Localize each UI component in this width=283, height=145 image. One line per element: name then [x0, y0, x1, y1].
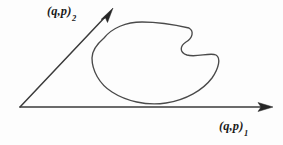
phase-space-figure: (q,p)2 (q,p)1 — [0, 0, 283, 145]
horizontal-axis-label-subscript: 1 — [244, 128, 248, 138]
vertical-axis-label: (q,p)2 — [47, 5, 76, 20]
vertical-axis-label-base: (q,p) — [47, 4, 71, 18]
horizontal-axis-label-base: (q,p) — [219, 119, 243, 133]
closed-orbit-curve — [92, 22, 219, 104]
horizontal-axis-label: (q,p)1 — [219, 120, 248, 135]
vertical-axis-line — [20, 16, 106, 107]
vertical-axis-label-subscript: 2 — [72, 13, 76, 23]
